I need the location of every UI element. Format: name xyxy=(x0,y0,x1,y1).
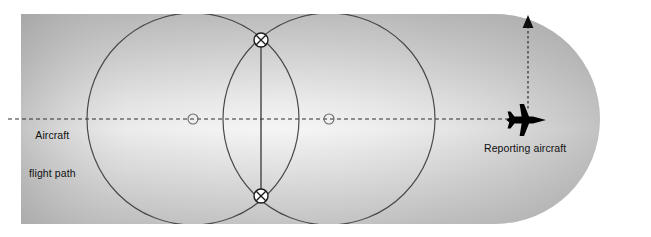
flight-path-label-line2: flight path xyxy=(29,167,76,180)
reporting-aircraft-label: Reporting aircraft xyxy=(484,142,566,155)
flight-path-label: Aircraft flight path xyxy=(29,104,76,204)
upper-intersection-circle-x-icon xyxy=(254,33,268,47)
flight-path-label-line1: Aircraft xyxy=(29,129,76,142)
lower-intersection-circle-x-icon xyxy=(254,189,268,203)
diagram-canvas: Aircraft flight path Reporting aircraft xyxy=(0,0,651,237)
separation-diagram-svg xyxy=(0,0,651,237)
